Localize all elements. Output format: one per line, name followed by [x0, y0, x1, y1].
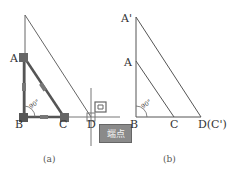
- label-b-b: B: [130, 119, 138, 130]
- geometry-canvas: [0, 0, 245, 176]
- label-a: A: [10, 53, 18, 64]
- label-d-c-prime: D(C'): [198, 119, 227, 130]
- label-a-prime: A': [121, 13, 132, 24]
- label-c-b: C: [170, 119, 178, 130]
- label-b: B: [15, 119, 23, 130]
- caption-a: (a): [43, 155, 55, 164]
- label-c: C: [59, 119, 67, 130]
- label-d: D: [87, 119, 96, 130]
- snap-tooltip: 端点: [99, 124, 132, 143]
- label-a-b: A: [124, 57, 132, 68]
- grip-bc-mid[interactable]: [40, 115, 48, 119]
- grip-ab-mid[interactable]: [22, 83, 26, 91]
- caption-b: (b): [163, 155, 176, 164]
- line-a-c: [136, 61, 174, 117]
- grip-a[interactable]: [19, 53, 28, 62]
- endpoint-snap-icon: [95, 102, 106, 112]
